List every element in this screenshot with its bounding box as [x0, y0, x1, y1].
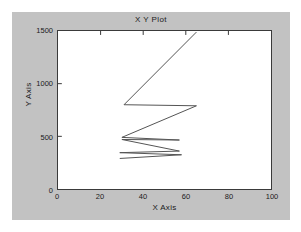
figure-canvas: X Y Plot 0 20 40 60 80 100 0 500 1000 15… — [12, 12, 290, 220]
screenshot-root: X Y Plot 0 20 40 60 80 100 0 500 1000 15… — [0, 0, 301, 232]
y-axis-label: Y Axis — [24, 65, 33, 125]
data-series-line — [120, 32, 197, 158]
x-tick-label-1: 20 — [96, 192, 104, 201]
plot-line-svg — [58, 31, 271, 189]
x-tick-label-4: 80 — [225, 192, 233, 201]
y-tick-label-0: 0 — [23, 186, 53, 195]
page-title: X Y Plot — [12, 15, 290, 24]
x-tick-label-5: 100 — [266, 192, 279, 201]
x-tick-label-3: 60 — [182, 192, 190, 201]
x-axis-label: X Axis — [57, 203, 272, 212]
y-tick-label-3: 1500 — [23, 26, 53, 35]
x-tick-label-2: 40 — [139, 192, 147, 201]
plot-axes — [57, 30, 272, 190]
x-tick-label-0: 0 — [55, 192, 59, 201]
y-tick-label-1: 500 — [23, 132, 53, 141]
